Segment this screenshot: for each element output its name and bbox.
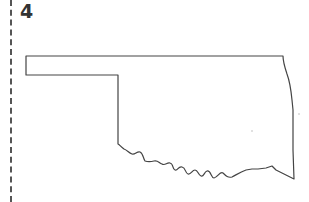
oklahoma-outline [26,56,294,179]
map-speck [298,113,300,115]
state-outline-map [0,0,309,202]
map-speck [251,130,253,132]
